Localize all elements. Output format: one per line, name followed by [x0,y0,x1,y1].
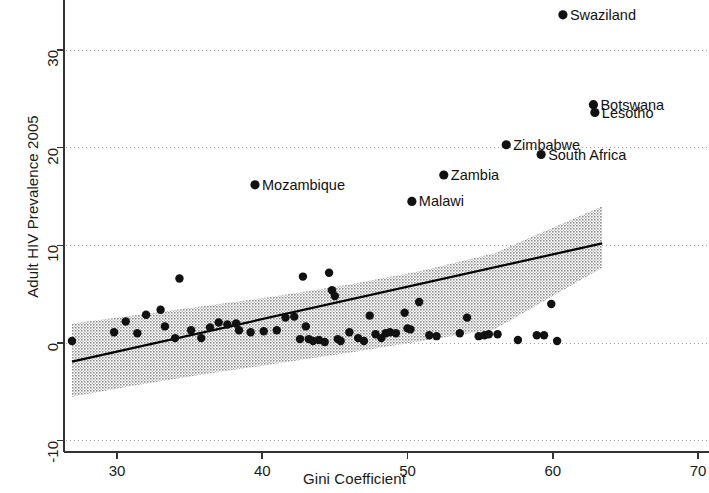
data-point [321,338,329,346]
y-tick-label: 20 [44,148,61,165]
data-point [171,334,179,342]
data-point [214,318,222,326]
labeled-data-point-botswana [589,100,598,109]
x-tick-label: 40 [254,462,271,479]
data-point [296,335,304,343]
data-point [161,322,169,330]
point-label-mozambique: Mozambique [262,177,345,193]
data-point [533,331,541,339]
point-label-malawi: Malawi [419,193,464,209]
data-point [290,312,298,320]
data-point [133,329,141,337]
data-point [142,310,150,318]
data-point [485,330,493,338]
labeled-data-point-zambia [439,170,448,179]
data-point [425,331,433,339]
x-axis-title: Gini Coefficient [0,470,709,487]
data-point [273,326,281,334]
y-tick-label: -10 [44,441,61,463]
data-point [260,327,268,335]
data-point [175,274,183,282]
data-point [553,337,561,345]
labeled-data-point-zimbabwe [502,140,511,149]
data-point [197,334,205,342]
labeled-data-point-lesotho [590,108,599,117]
labeled-data-point-mozambique [250,180,259,189]
data-point [432,332,440,340]
data-point [336,337,344,345]
point-label-lesotho: Lesotho [602,105,654,121]
x-tick-label: 60 [544,462,561,479]
data-point [406,325,414,333]
labeled-data-point-swaziland [558,10,567,19]
y-tick-label: 30 [44,50,61,67]
data-point [540,331,548,339]
data-point [547,300,555,308]
data-point [366,311,374,319]
data-point [302,322,310,330]
data-point [463,313,471,321]
data-point [156,306,164,314]
plot-canvas [0,0,709,493]
data-point [456,329,464,337]
data-point [514,336,522,344]
data-point [331,292,339,300]
x-tick-label: 50 [399,462,416,479]
scatter-plot-figure: Gini Coefficient Adult HIV Prevalence 20… [0,0,709,493]
data-point [110,328,118,336]
data-point [493,330,501,338]
data-point [345,328,353,336]
data-point [68,337,76,345]
data-point [187,326,195,334]
data-point [325,268,333,276]
data-point [415,298,423,306]
point-label-swaziland: Swaziland [570,7,636,23]
point-label-zambia: Zambia [451,167,499,183]
plot-axes [57,0,709,459]
data-point [360,337,368,345]
data-point [122,317,130,325]
labeled-data-point-malawi [407,197,416,206]
y-axis-title: Adult HIV Prevalence 2005 [24,57,41,357]
data-point [246,328,254,336]
data-point [400,309,408,317]
point-label-south-africa: South Africa [548,147,626,163]
data-point [281,313,289,321]
x-tick-label: 70 [690,462,707,479]
data-point [223,320,231,328]
x-tick-label: 30 [109,462,126,479]
data-point [392,329,400,337]
data-point [206,323,214,331]
data-point [299,272,307,280]
data-point [235,326,243,334]
y-tick-label: 0 [44,343,61,351]
y-tick-label: 10 [44,245,61,262]
